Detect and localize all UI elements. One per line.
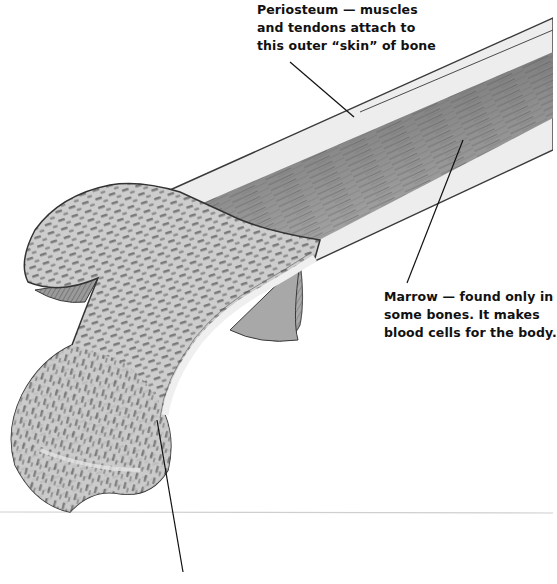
ground-line [0,512,553,513]
marrow-label-line-1: Marrow — found only in [384,288,557,306]
marrow-label: Marrow — found only in some bones. It ma… [384,288,557,342]
periosteum-label-line-2: and tendons attach to [257,19,436,37]
periosteum-label: Periosteum — muscles and tendons attach … [257,1,436,55]
periosteum-leader-line [290,62,354,117]
marrow-label-line-2: some bones. It makes [384,306,557,324]
periosteum-label-line-3: this outer “skin” of bone [257,37,436,55]
marrow-label-line-3: blood cells for the body. [384,324,557,342]
periosteum-label-line-1: Periosteum — muscles [257,1,436,19]
